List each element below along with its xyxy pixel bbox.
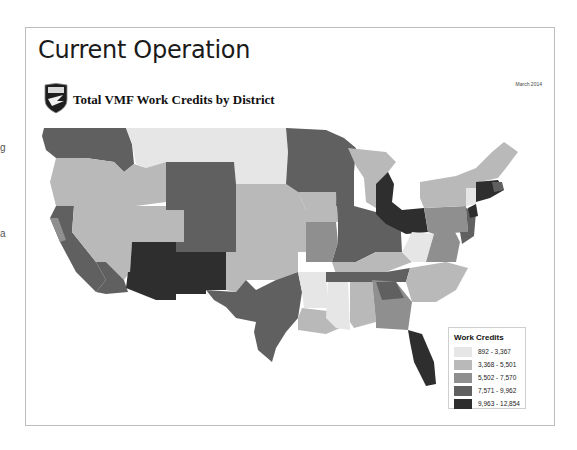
legend-swatch: [454, 373, 472, 383]
legend-label: 5,502 - 7,570: [478, 374, 516, 381]
legend-item: 3,368 - 5,501: [454, 358, 520, 371]
region-colorado: [176, 206, 236, 252]
region-hudson-valley: [466, 188, 476, 206]
slide-frame: Current Operation Total VMF Work Credits…: [25, 27, 555, 426]
region-east-texas: [254, 272, 302, 362]
region-wyoming: [166, 162, 236, 210]
offslide-text-fragment: a: [0, 228, 6, 239]
legend-swatch: [454, 399, 472, 409]
region-carolinas: [406, 262, 468, 302]
map-title: Total VMF Work Credits by District: [73, 92, 275, 108]
region-alabama: [350, 280, 376, 328]
region-florida: [408, 330, 436, 386]
legend-item: 892 - 3,367: [454, 345, 520, 358]
legend-item: 9,963 - 12,854: [454, 397, 520, 410]
region-arkansas: [298, 272, 328, 308]
legend-swatch: [454, 347, 472, 357]
offslide-text-fragment: g: [0, 142, 6, 153]
legend-item: 5,502 - 7,570: [454, 371, 520, 384]
region-pennsylvania: [424, 206, 468, 234]
legend-label: 892 - 3,367: [478, 348, 511, 355]
slide-title: Current Operation: [38, 36, 250, 64]
usps-eagle-shield-icon: [43, 82, 69, 114]
region-nebraska-kansas: [236, 184, 306, 252]
legend-label: 9,963 - 12,854: [478, 400, 520, 407]
map-legend: Work Credits 892 - 3,367 3,368 - 5,501 5…: [448, 327, 526, 409]
legend-label: 3,368 - 5,501: [478, 361, 516, 368]
legend-title: Work Credits: [454, 333, 520, 342]
legend-label: 7,571 - 9,962: [478, 387, 516, 394]
legend-swatch: [454, 360, 472, 370]
legend-item: 7,571 - 9,962: [454, 384, 520, 397]
region-missouri: [306, 222, 338, 262]
map-date: March 2014: [516, 81, 542, 87]
legend-swatch: [454, 386, 472, 396]
